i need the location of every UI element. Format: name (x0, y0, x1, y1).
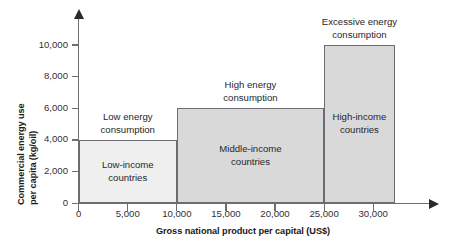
y-tick-4000 (72, 139, 79, 140)
y-tick-label-holder-0: 0 (20, 197, 68, 209)
bar-outer-label-middle-income: High energy consumption (165, 78, 336, 104)
y-tick-label-10000: 10,000 (20, 39, 68, 50)
energy-use-vs-gnp-chart: Commercial energy use per capita (kg/oil… (0, 0, 457, 247)
y-tick-label-holder-2000: 2,000 (20, 165, 68, 177)
x-axis-title: Gross national product per capital (US$) (78, 226, 408, 236)
x-axis-line (78, 203, 430, 204)
y-tick-label-holder-6000: 6,000 (20, 102, 68, 114)
y-tick-label-holder-10000: 10,000 (20, 39, 68, 51)
bar-outer-label-high-income: Excessive energy consumption (312, 15, 407, 41)
bar-outer-label-low-income: Low energy consumption (67, 110, 189, 136)
y-axis-arrowhead-icon (74, 9, 84, 19)
y-tick-10000 (72, 44, 79, 45)
bar-inner-label-low-income: Low-income countries (79, 158, 177, 184)
y-tick-label-0: 0 (20, 197, 68, 208)
y-tick-label-4000: 4,000 (20, 133, 68, 144)
y-tick-label-6000: 6,000 (20, 102, 68, 113)
x-axis-arrowhead-icon (429, 199, 439, 209)
y-tick-label-holder-8000: 8,000 (20, 70, 68, 82)
y-tick-label-2000: 2,000 (20, 165, 68, 176)
y-tick-label-8000: 8,000 (20, 70, 68, 81)
y-tick-2000 (72, 171, 79, 172)
x-tick-label-30000: 30,000 (343, 208, 403, 219)
bar-inner-label-middle-income: Middle-income countries (177, 142, 324, 168)
bar-inner-label-high-income: High-income countries (324, 110, 395, 136)
y-axis-title-line-1: Commercial energy use (15, 103, 27, 205)
y-tick-6000 (72, 108, 79, 109)
y-tick-label-holder-4000: 4,000 (20, 133, 68, 145)
y-tick-8000 (72, 76, 79, 77)
